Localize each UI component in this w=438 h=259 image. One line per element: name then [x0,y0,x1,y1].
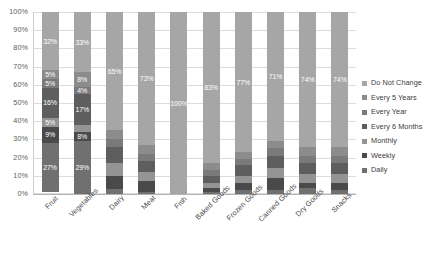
stacked-bar[interactable]: 74% [299,12,316,194]
legend-item[interactable]: Every 6 Months [362,120,438,135]
bar-segment[interactable]: 27% [42,143,59,192]
bar-segment[interactable]: 71% [267,12,284,141]
bar-segment[interactable] [74,125,91,132]
bar-segment[interactable] [138,154,155,161]
legend-item-label: Daily [371,166,387,174]
bar-slot: 74% [292,12,324,194]
bar-segment[interactable] [299,156,316,163]
x-axis-slot: Dry Goods [291,196,323,258]
bar-segment[interactable]: 29% [74,141,91,194]
bar-segment[interactable] [331,163,348,174]
bar-segment[interactable]: 16% [42,88,59,117]
bar-segment[interactable]: 5% [42,79,59,88]
bar-segment[interactable] [331,147,348,156]
bar-segment[interactable] [106,139,123,146]
bar-segment[interactable] [106,163,123,176]
bar-segment-label: 4% [77,87,87,94]
bar-segment[interactable]: 100% [170,12,187,194]
bar-segment[interactable] [203,163,220,170]
bar-segment[interactable]: 73% [138,12,155,145]
legend-item-label: Weekly [371,152,395,160]
stacked-bar[interactable]: 33%8%4%17%8%29% [74,12,91,194]
bar-segment[interactable] [299,147,316,156]
bar-segment-label: 77% [236,79,250,86]
x-axis-slot: Fish [162,196,194,258]
x-axis-slot: Fruit [33,196,65,258]
x-axis-slot: Dairy [97,196,129,258]
bar-segment[interactable] [235,183,252,190]
bar-segment[interactable] [106,176,123,189]
stacked-bar[interactable]: 100% [170,12,187,194]
legend-item[interactable]: Daily [362,163,438,178]
legend-item[interactable]: Monthly [362,134,438,149]
stacked-bar[interactable]: 32%5%5%16%5%9%27% [42,12,59,194]
bar-segment[interactable] [203,176,220,183]
stacked-bar[interactable]: 73% [138,12,155,194]
bar-segment[interactable]: 77% [235,12,252,152]
bar-segment-label: 65% [108,68,122,75]
legend-item[interactable]: Every Year [362,105,438,120]
bar-segment[interactable] [106,130,123,139]
x-axis-slot: Canned Goods [258,196,290,258]
bar-slot: 73% [131,12,163,194]
y-axis: 100%90%80%70%60%50%40%30%20%10%0% [0,12,31,194]
bar-segment-label: 100% [170,100,188,107]
bar-segment[interactable] [267,178,284,191]
legend-item[interactable]: Do Not Change [362,76,438,91]
bar-segment[interactable] [138,172,155,181]
legend-item[interactable]: Weekly [362,149,438,164]
legend-item-label: Every 6 Months [371,123,422,131]
bar-segment[interactable] [267,141,284,148]
bar-segment[interactable] [106,147,123,163]
stacked-bar[interactable]: 83% [203,12,220,194]
stacked-bar[interactable]: 65% [106,12,123,194]
bar-segment-label: 17% [75,106,89,113]
legend-item[interactable]: Every 5 Years [362,91,438,106]
bars-layer: 32%5%5%16%5%9%27%33%8%4%17%8%29%65%73%10… [34,12,356,194]
bar-segment[interactable]: 8% [74,72,91,87]
bar-segment[interactable]: 4% [74,87,91,94]
bar-segment[interactable]: 9% [42,127,59,143]
plot-area: 32%5%5%16%5%9%27%33%8%4%17%8%29%65%73%10… [33,12,356,195]
legend-item-label: Do Not Change [371,79,422,87]
bar-segment[interactable] [267,148,284,155]
bar-segment-label: 8% [77,133,87,140]
stacked-bar[interactable]: 77% [235,12,252,194]
bar-segment[interactable] [138,192,155,194]
bar-segment[interactable] [235,165,252,176]
bar-segment[interactable] [299,174,316,183]
bar-segment[interactable]: 32% [42,12,59,70]
x-axis-tick-label: Meat [140,194,157,211]
bar-segment[interactable] [138,161,155,172]
bar-segment[interactable] [299,163,316,174]
bar-slot: 74% [324,12,356,194]
bar-segment[interactable] [235,176,252,183]
bar-segment[interactable]: 33% [74,12,91,72]
bar-segment[interactable] [267,156,284,169]
x-axis-tick-label: Dairy [107,194,125,212]
bar-segment[interactable] [331,174,348,183]
y-axis-tick-label: 20% [13,154,28,161]
stacked-bar[interactable]: 71% [267,12,284,194]
legend-swatch-icon [362,168,367,173]
bar-segment[interactable]: 5% [42,70,59,79]
bar-segment[interactable] [138,181,155,192]
bar-segment[interactable]: 8% [74,132,91,141]
x-axis-tick-label: Fruit [44,195,60,211]
bar-segment[interactable]: 17% [74,94,91,125]
bar-segment[interactable]: 65% [106,12,123,130]
bar-segment[interactable] [138,145,155,154]
bar-segment[interactable] [331,183,348,190]
bar-segment-label: 33% [75,39,89,46]
bar-segment[interactable] [235,152,252,159]
bar-segment[interactable] [331,156,348,163]
y-axis-tick-label: 10% [13,172,28,179]
x-axis-slot: Frozen Goods [226,196,258,258]
bar-segment[interactable]: 83% [203,12,220,163]
bar-segment[interactable]: 74% [331,12,348,147]
bar-segment[interactable]: 5% [42,118,59,127]
legend-swatch-icon [362,153,367,158]
stacked-bar[interactable]: 74% [331,12,348,194]
bar-segment[interactable]: 74% [299,12,316,147]
bar-segment[interactable] [267,168,284,177]
